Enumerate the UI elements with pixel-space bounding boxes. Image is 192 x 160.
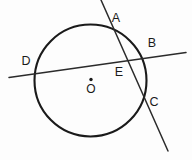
center-point-dot-icon (89, 78, 92, 81)
vertex-label-d: D (21, 54, 30, 68)
vertex-label-c: C (149, 95, 158, 109)
center-label-o: O (86, 82, 96, 96)
vertex-label-a: A (112, 11, 121, 25)
geometry-figure-canvas: A B C D E O (0, 0, 192, 160)
vertex-label-b: B (148, 36, 157, 50)
vertex-label-e: E (115, 65, 124, 79)
geometry-diagram: A B C D E O (0, 0, 192, 160)
secant-line-db (9, 53, 186, 78)
